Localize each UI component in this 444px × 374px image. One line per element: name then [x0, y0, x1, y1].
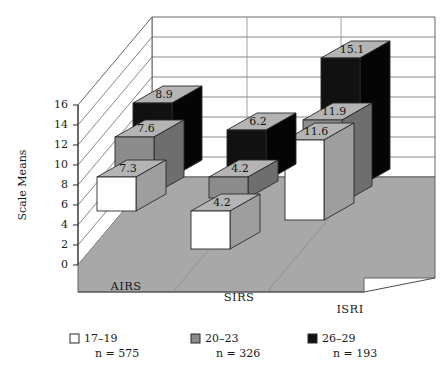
floor-front-edge-right	[364, 278, 435, 292]
y-tick-label-4: 4	[61, 218, 68, 231]
legend-label-n: n = 193	[333, 347, 377, 360]
y-tick-label-6: 6	[61, 198, 68, 211]
bar-value-label: 6.2	[249, 115, 267, 128]
chart-container: 16 14 12 10 8 6 4 2 0 Scale Means 15.1	[0, 0, 444, 374]
bar-value-label: 4.2	[231, 162, 249, 175]
bar-front-face	[191, 211, 230, 249]
legend-label-age: 17–19	[84, 332, 118, 345]
cat-label-isri: ISRI	[336, 302, 363, 316]
bar-value-label: 7.6	[137, 122, 155, 135]
bar-chart-3d: 16 14 12 10 8 6 4 2 0 Scale Means 15.1	[0, 0, 444, 374]
legend-label-age: 26–29	[322, 332, 356, 345]
y-tick-label-2: 2	[61, 238, 68, 251]
bar-value-label: 11.6	[304, 125, 329, 138]
bar-value-label: 7.3	[119, 162, 137, 175]
y-tick-label-16: 16	[54, 98, 68, 111]
legend-item-17-19[interactable]: 17–19 n = 575	[70, 332, 139, 360]
y-tick-label-8: 8	[61, 178, 68, 191]
legend-swatch-black-icon	[308, 334, 317, 343]
chart-legend: 17–19 n = 575 20–23 n = 326 26–29 n = 19…	[70, 332, 377, 360]
bar-value-label: 11.9	[322, 105, 347, 118]
legend-swatch-gray-icon	[191, 334, 200, 343]
legend-label-n: n = 575	[95, 347, 139, 360]
y-tick-label-12: 12	[54, 138, 68, 151]
y-tick-label-14: 14	[54, 118, 68, 131]
y-axis: 16 14 12 10 8 6 4 2 0 Scale Means	[16, 98, 78, 271]
y-tick-label-10: 10	[54, 158, 68, 171]
legend-swatch-white-icon	[70, 334, 79, 343]
bar-front-face	[97, 177, 136, 211]
legend-item-20-23[interactable]: 20–23 n = 326	[191, 332, 260, 360]
legend-label-n: n = 326	[216, 347, 260, 360]
cat-label-airs: AIRS	[110, 279, 142, 293]
legend-label-age: 20–23	[205, 332, 239, 345]
bar-side-face	[324, 123, 354, 220]
bar-value-label: 4.2	[213, 196, 231, 209]
legend-item-26-29[interactable]: 26–29 n = 193	[308, 332, 377, 360]
y-tick-label-0: 0	[61, 258, 68, 271]
bar-value-label: 15.1	[340, 43, 365, 56]
y-axis-title: Scale Means	[16, 149, 29, 220]
bar-value-label: 8.9	[155, 88, 173, 101]
cat-label-sirs: SIRS	[224, 290, 255, 304]
